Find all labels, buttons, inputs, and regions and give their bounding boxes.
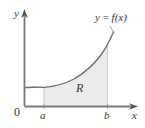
function-label-equals: = <box>100 11 112 23</box>
function-label-leader <box>110 26 114 33</box>
region-label-R: R <box>76 82 83 94</box>
function-label: y = f(x) <box>95 12 127 23</box>
function-label-rhs: f(x) <box>112 11 127 23</box>
figure-container: y x 0 a b R y = f(x) <box>0 0 145 128</box>
lower-limit-label-a: a <box>40 110 46 121</box>
x-axis-label: x <box>132 110 137 121</box>
shaded-region-R <box>44 44 108 106</box>
upper-limit-label-b: b <box>104 110 110 121</box>
origin-label: 0 <box>14 106 20 118</box>
y-axis-label: y <box>14 8 19 19</box>
